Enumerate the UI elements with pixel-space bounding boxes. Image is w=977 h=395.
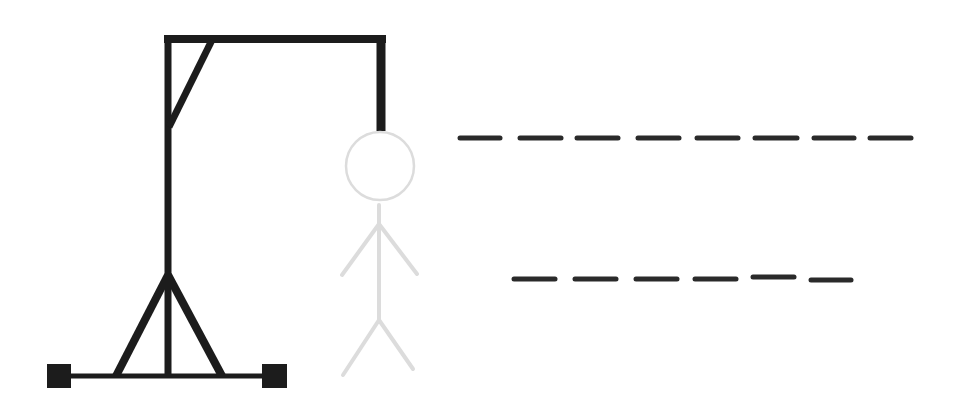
gallows-base-block bbox=[47, 364, 71, 388]
figure-arm bbox=[379, 224, 417, 274]
gallows bbox=[47, 35, 386, 388]
hangman-board: Hangman bbox=[0, 0, 977, 395]
word-blanks bbox=[460, 138, 911, 280]
figure-leg bbox=[343, 320, 379, 375]
word-row-2 bbox=[514, 277, 851, 280]
figure-head bbox=[346, 132, 414, 200]
gallows-brace bbox=[169, 40, 212, 127]
gallows-support bbox=[116, 275, 168, 376]
gallows-support bbox=[168, 275, 222, 376]
figure-arm bbox=[342, 224, 379, 275]
hangman-figure bbox=[342, 132, 417, 375]
gallows-base-block bbox=[262, 364, 287, 388]
figure-leg bbox=[379, 320, 413, 369]
